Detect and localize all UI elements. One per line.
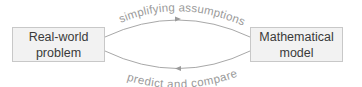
node-label-line: Real-world (29, 29, 89, 45)
node-mathematical-model: Mathematical model (250, 27, 343, 62)
node-label-line: problem (29, 45, 89, 61)
arrowhead-left-icon (175, 66, 181, 71)
arrowhead-right-icon (175, 17, 181, 22)
node-label-line: Mathematical (259, 29, 333, 45)
arrow-predict (105, 51, 250, 69)
node-label-line: model (259, 45, 333, 61)
node-real-world-problem: Real-world problem (12, 27, 105, 62)
modeling-cycle-diagram: simplifying assumptions predict and comp… (0, 0, 362, 87)
edge-label-bottom: predict and compare (126, 67, 239, 87)
edge-label-top: simplifying assumptions (117, 1, 247, 28)
